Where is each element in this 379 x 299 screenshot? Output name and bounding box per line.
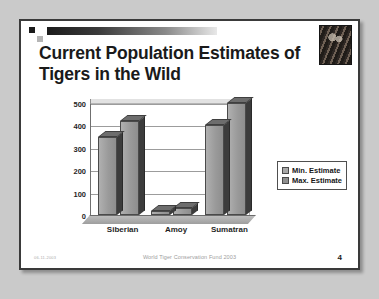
legend-item-min: Min. Estimate — [282, 166, 342, 175]
legend-swatch-min-icon — [282, 167, 289, 174]
slide-number: 4 — [338, 253, 342, 262]
slide-title: Current Population Estimates of Tigers i… — [39, 43, 329, 86]
legend-item-max: Max. Estimate — [282, 176, 342, 185]
x-axis-label-siberian: Siberian — [107, 225, 139, 234]
presentation-slide: Current Population Estimates of Tigers i… — [19, 19, 360, 270]
chart-floor — [82, 215, 256, 224]
bar-side-face — [139, 116, 145, 215]
header-square-dark-icon — [29, 27, 35, 33]
legend-label-min: Min. Estimate — [292, 166, 340, 175]
header-gradient-bar — [47, 27, 217, 35]
y-axis-tick-label: 100 — [73, 189, 91, 198]
footer-organization: World Tiger Conservation Fund 2003 — [21, 254, 358, 260]
bar-group — [90, 103, 143, 215]
bar-front-face — [98, 137, 117, 215]
x-axis-label-sumatran: Sumatran — [211, 225, 248, 234]
y-axis-tick-label: 200 — [73, 167, 91, 176]
bar-sumatran-min — [205, 125, 224, 215]
screenshot-stage: Current Population Estimates of Tigers i… — [0, 0, 379, 299]
bar-chart: 0100200300400500 SiberianAmoySumatran Mi… — [49, 99, 349, 239]
chart-legend: Min. Estimate Max. Estimate — [277, 161, 347, 190]
legend-swatch-max-icon — [282, 177, 289, 184]
y-axis-tick-label: 400 — [73, 122, 91, 131]
legend-label-max: Max. Estimate — [292, 176, 342, 185]
bar-front-face — [205, 125, 224, 215]
bar-amoy-min — [151, 211, 170, 215]
bar-side-face — [246, 98, 252, 215]
bar-side-face — [224, 121, 230, 215]
bar-side-face — [117, 132, 123, 215]
bar-group — [197, 103, 250, 215]
header-square-light-icon — [37, 36, 43, 42]
x-axis-label-amoy: Amoy — [165, 225, 187, 234]
bar-amoy-max — [173, 208, 192, 215]
bar-siberian-min — [98, 137, 117, 215]
chart-x-axis: SiberianAmoySumatran — [90, 225, 262, 239]
bar-front-face — [173, 208, 192, 215]
bar-group — [143, 103, 196, 215]
y-axis-tick-label: 300 — [73, 144, 91, 153]
y-axis-tick-label: 500 — [73, 100, 91, 109]
chart-bars — [90, 103, 250, 215]
bar-front-face — [151, 211, 170, 215]
